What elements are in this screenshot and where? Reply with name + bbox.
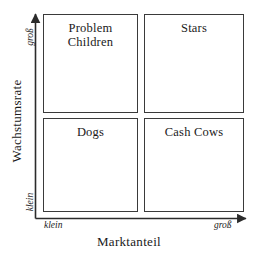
x-axis-low-label: klein [44, 220, 62, 230]
quadrant-label-cash-cows: Cash Cows [145, 125, 243, 139]
y-axis-low-label: klein [25, 178, 35, 226]
y-axis-high-label: groß [25, 15, 35, 59]
x-axis-high-label: groß [214, 220, 232, 230]
quadrant-cash-cows[interactable]: Cash Cows [144, 118, 244, 212]
quadrant-stars[interactable]: Stars [144, 14, 244, 113]
quadrant-label-stars: Stars [145, 21, 243, 35]
x-axis-title: Marktanteil [0, 234, 258, 250]
quadrant-label-problem-children: Problem Children [44, 21, 137, 49]
bcg-matrix-diagram: Problem Children Stars Dogs Cash Cows Ma… [0, 0, 258, 255]
quadrant-problem-children[interactable]: Problem Children [43, 14, 138, 113]
y-axis-title: Wachstumsrate [9, 56, 25, 186]
quadrant-dogs[interactable]: Dogs [43, 118, 138, 212]
quadrant-label-dogs: Dogs [44, 125, 137, 139]
